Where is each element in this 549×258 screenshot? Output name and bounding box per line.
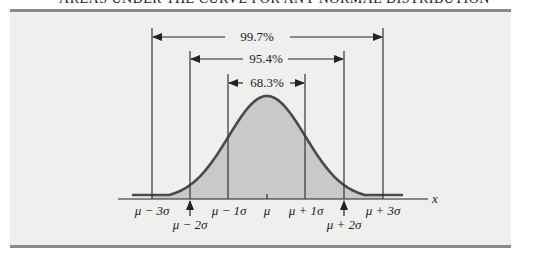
- tick-plus-2-sigma: μ + 2σ: [326, 217, 362, 232]
- tick-plus-1-sigma: μ + 1σ: [288, 203, 324, 218]
- label-95-4: 95.4%: [249, 51, 283, 66]
- tick-minus-3-sigma: μ − 3σ: [134, 203, 170, 218]
- tick-minus-2-sigma: μ − 2σ: [172, 217, 208, 232]
- label-99-7: 99.7%: [240, 29, 274, 44]
- tick-mean: μ: [263, 203, 271, 218]
- tick-minus-1-sigma: μ − 1σ: [211, 203, 247, 218]
- tick-plus-3-sigma: μ + 3σ: [365, 203, 401, 218]
- normal-curve-chart: x 99.7% 95.4% 68.3% μ − 3σ μ − 1σ μ μ + …: [0, 0, 549, 258]
- label-68-3: 68.3%: [250, 75, 284, 90]
- x-axis-label: x: [431, 191, 438, 206]
- shaded-area: [152, 96, 383, 199]
